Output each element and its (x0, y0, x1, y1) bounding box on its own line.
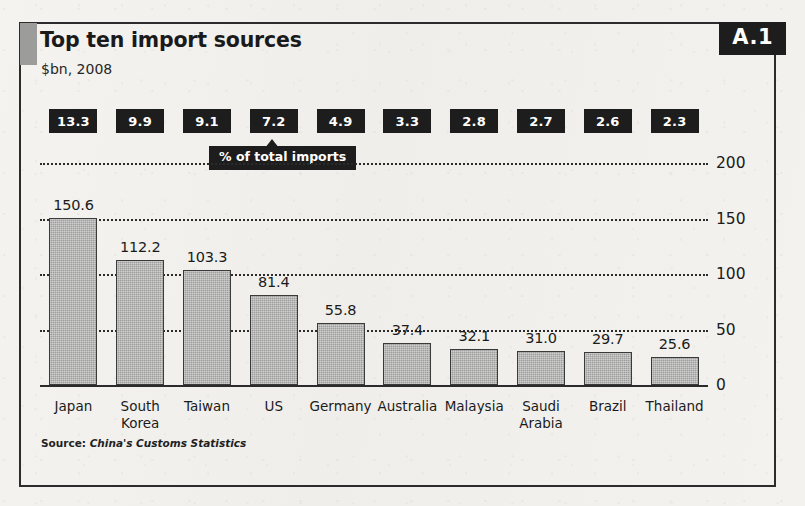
bar-value-label: 32.1 (436, 328, 512, 344)
category-label: Germany (304, 398, 378, 415)
bar (49, 218, 97, 385)
percent-of-total-imports-box: 2.3 (651, 109, 699, 133)
gridline (40, 163, 708, 165)
y-axis-tick-label: 150 (716, 210, 746, 228)
bar (584, 352, 632, 385)
bar-value-label: 150.6 (35, 197, 111, 213)
bar (651, 357, 699, 385)
bar-value-label: 55.8 (303, 302, 379, 318)
bar (517, 351, 565, 385)
category-label: South Korea (103, 398, 177, 432)
axis-baseline (40, 385, 708, 387)
bar (317, 323, 365, 385)
bar-value-label: 103.3 (169, 249, 245, 265)
percent-of-total-imports-box: 4.9 (317, 109, 365, 133)
bar-value-label: 37.4 (369, 322, 445, 338)
category-label: Australia (370, 398, 444, 415)
percent-of-total-imports-box: 9.9 (116, 109, 164, 133)
percent-label-row: 13.39.99.17.24.93.32.82.72.62.3 (40, 109, 700, 135)
y-axis-tick-label: 0 (716, 376, 726, 394)
corner-tab-marker (20, 23, 37, 65)
category-label: Brazil (571, 398, 645, 415)
percent-of-total-imports-box: 2.8 (450, 109, 498, 133)
bar-value-label: 31.0 (503, 330, 579, 346)
source-prefix: Source: (41, 437, 90, 449)
percent-of-total-imports-box: 2.6 (584, 109, 632, 133)
bar-value-label: 25.6 (637, 336, 713, 352)
bar (383, 343, 431, 385)
chart-subtitle: $bn, 2008 (41, 61, 112, 77)
percent-of-total-imports-box: 9.1 (183, 109, 231, 133)
category-label: Malaysia (437, 398, 511, 415)
category-label: Japan (36, 398, 110, 415)
category-label: US (237, 398, 311, 415)
bar (116, 260, 164, 385)
category-label: Thailand (638, 398, 712, 415)
y-axis-tick-label: 200 (716, 154, 746, 172)
y-axis-tick-label: 50 (716, 321, 736, 339)
source-note: Source: China's Customs Statistics (41, 437, 246, 449)
bar (183, 270, 231, 385)
percent-of-total-imports-box: 2.7 (517, 109, 565, 133)
percent-of-total-imports-box: 3.3 (383, 109, 431, 133)
y-axis-tick-label: 100 (716, 265, 746, 283)
callout-label: % of total imports (209, 146, 356, 170)
bar-value-label: 81.4 (236, 274, 312, 290)
bar (450, 349, 498, 385)
bar-value-label: 112.2 (102, 239, 178, 255)
chart-plot-area: 13.39.99.17.24.93.32.82.72.62.3 % of tot… (40, 100, 754, 430)
percent-of-total-imports-box: 7.2 (250, 109, 298, 133)
bar-value-label: 29.7 (570, 331, 646, 347)
gridline (40, 219, 708, 221)
page-title: Top ten import sources (40, 28, 302, 52)
category-label: Taiwan (170, 398, 244, 415)
percent-of-total-imports-box: 13.3 (49, 109, 97, 133)
figure-badge: A.1 (719, 22, 786, 55)
source-name: China's Customs Statistics (90, 437, 247, 449)
category-label: Saudi Arabia (504, 398, 578, 432)
bar (250, 295, 298, 385)
